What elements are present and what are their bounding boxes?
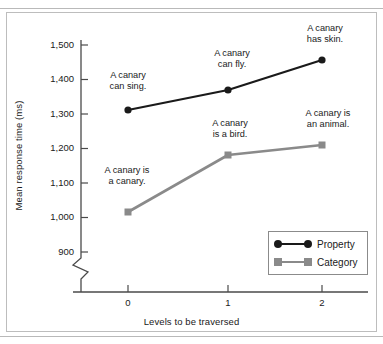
y-tick-label-1100: 1,100 [28,177,74,188]
annotation-canary-has-skin: A canary has skin. [284,23,366,46]
x-axis-title: Levels to be traversed [0,316,383,327]
y-tick-label-1200: 1,200 [28,142,74,153]
y-tick-label-1500: 1,500 [28,39,74,50]
annotation-line-2: a canary. [82,176,172,187]
x-tick-label-2: 2 [312,297,332,308]
annotation-line-1: A canary [88,70,168,81]
annotation-line-1: A canary is [82,165,172,176]
annotation-canary-is-a-canary: A canary is a canary. [82,165,172,188]
annotation-line-1: A canary [188,118,272,129]
legend-item-category: Category [274,254,358,270]
y-tick-label-1400: 1,400 [28,73,74,84]
annotation-canary-can-sing: A canary can sing. [88,70,168,93]
legend-label-category: Category [317,257,358,268]
annotation-line-1: A canary [284,23,366,34]
annotation-line-1: A canary [192,48,272,59]
legend-swatch-property-circle-line-icon [274,238,312,250]
chart-legend: Property Category [268,231,368,275]
x-tick-label-1: 1 [218,297,238,308]
annotation-line-2: is a bird. [188,129,272,140]
annotation-line-2: has skin. [284,34,366,45]
annotation-line-2: can fly. [192,59,272,70]
annotation-canary-can-fly: A canary can fly. [192,48,272,71]
y-tick-marks [81,45,88,252]
legend-item-property: Property [274,236,355,252]
y-tick-label-1000: 1,000 [28,211,74,222]
annotation-canary-is-a-bird: A canary is a bird. [188,118,272,141]
y-axis-break-icon [73,247,88,292]
annotation-line-2: an animal. [282,119,374,130]
y-axis-title: Mean response time (ms) [13,76,24,236]
figure-panel: 1,500 1,400 1,300 1,200 1,100 1,000 900 … [0,0,383,344]
annotation-line-1: A canary is [282,108,374,119]
annotation-canary-is-an-animal: A canary is an animal. [282,108,374,131]
x-tick-marks [128,285,322,292]
y-tick-label-1300: 1,300 [28,108,74,119]
annotation-line-2: can sing. [88,81,168,92]
y-tick-label-900: 900 [28,246,74,257]
legend-label-property: Property [317,239,355,250]
x-tick-label-0: 0 [118,297,138,308]
legend-swatch-category-square-line-icon [274,256,312,268]
